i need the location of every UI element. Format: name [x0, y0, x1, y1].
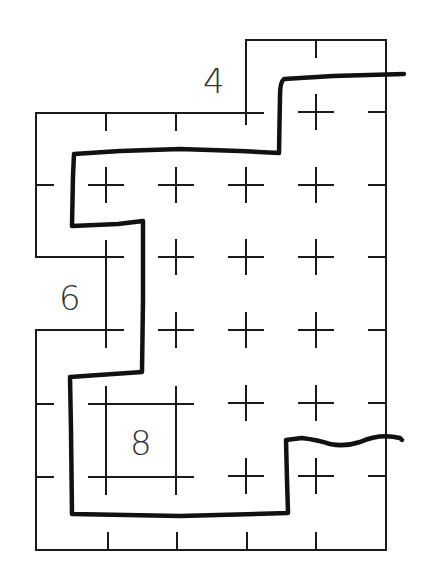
plus-marks — [89, 95, 333, 493]
label-6-walls — [106, 241, 123, 347]
plus-mark — [299, 313, 333, 347]
plus-mark — [159, 240, 193, 274]
edge-ticks — [36, 40, 386, 550]
plus-mark — [299, 168, 333, 202]
label-8: 8 — [130, 423, 152, 463]
plus-mark — [299, 386, 333, 420]
plus-mark — [299, 459, 333, 493]
plus-mark — [229, 386, 263, 420]
plus-mark — [159, 313, 193, 347]
plus-mark — [229, 459, 263, 493]
plus-mark — [229, 240, 263, 274]
region-boundary — [70, 74, 404, 516]
grid-diagram: 4 6 8 — [0, 0, 421, 580]
plus-mark — [299, 95, 333, 129]
label-4: 4 — [203, 61, 225, 101]
plus-mark — [229, 168, 263, 202]
plus-mark — [299, 240, 333, 274]
outer-outline — [36, 40, 386, 550]
label-6: 6 — [59, 278, 81, 318]
plus-mark — [89, 168, 123, 202]
plus-mark — [229, 313, 263, 347]
plus-mark — [159, 168, 193, 202]
